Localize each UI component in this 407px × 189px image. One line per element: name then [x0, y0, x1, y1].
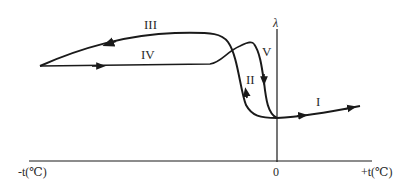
- arrow-I-1: [297, 116, 303, 117]
- arrow-I-2: [345, 108, 352, 110]
- label-V: V: [262, 44, 272, 59]
- x-axis-negative-label: -t(℃): [18, 165, 47, 179]
- x-axis-positive-label: +t(℃): [361, 165, 393, 179]
- y-axis-label: λ: [272, 16, 278, 30]
- origin-label: 0: [273, 165, 279, 179]
- arrow-II: [246, 92, 247, 98]
- label-II: II: [246, 72, 255, 87]
- hysteresis-diagram: λ III IV V II I -t(℃) 0 +t(℃): [0, 0, 407, 189]
- label-IV: IV: [141, 47, 155, 62]
- label-I: I: [316, 94, 320, 109]
- label-III: III: [144, 17, 157, 32]
